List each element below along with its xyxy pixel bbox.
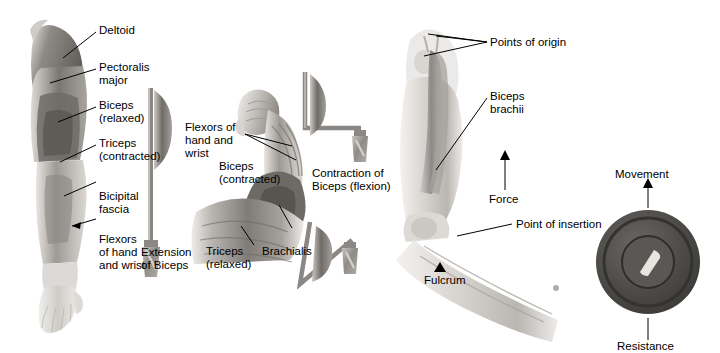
label-bicipital-fascia: Bicipital fascia <box>99 190 139 216</box>
label-movement: Movement <box>615 168 669 181</box>
label-deltoid: Deltoid <box>99 24 135 37</box>
label-biceps-relaxed: Biceps (relaxed) <box>99 99 144 125</box>
label-resistance: Resistance <box>617 340 674 353</box>
contraction-lever-90-diagram <box>305 72 368 162</box>
left-arm-illustration <box>30 20 87 333</box>
label-points-of-origin: Points of origin <box>490 36 566 49</box>
movement-arrow <box>643 178 653 208</box>
label-biceps-contracted: Biceps (contracted) <box>219 160 280 186</box>
caption-extension-of-biceps: Extension of Biceps <box>141 246 192 272</box>
label-fulcrum: Fulcrum <box>424 274 466 287</box>
dumbbell-weight <box>596 210 700 314</box>
caption-contraction-of-biceps: Contraction of Biceps (flexion) <box>312 167 391 193</box>
label-triceps-contracted: Triceps (contracted) <box>99 137 160 163</box>
right-arm-skeleton-illustration <box>396 29 559 342</box>
label-brachialis: Brachialis <box>262 245 312 258</box>
force-arrow <box>500 150 510 190</box>
label-pectoralis-major: Pectoralis major <box>99 61 150 87</box>
label-force: Force <box>489 193 518 206</box>
label-biceps-brachii: Biceps brachii <box>490 90 525 116</box>
label-flexors-left: Flexors of hand and wrist <box>99 233 145 272</box>
label-flexors-middle: Flexors of hand and wrist <box>185 121 236 160</box>
label-point-of-insertion: Point of insertion <box>516 218 602 231</box>
label-triceps-relaxed: Triceps (relaxed) <box>206 245 251 271</box>
